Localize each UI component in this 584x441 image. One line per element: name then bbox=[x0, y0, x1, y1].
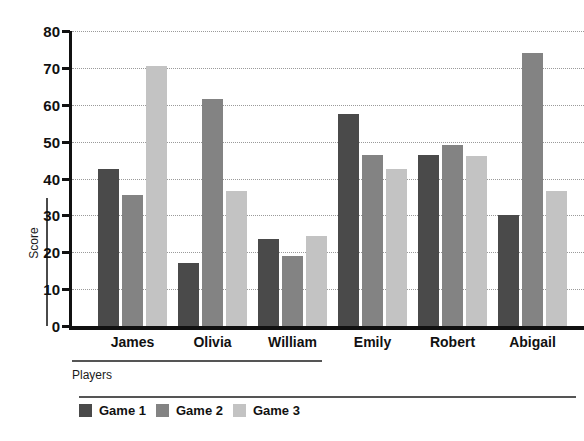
bar bbox=[226, 191, 247, 326]
legend-swatch-icon bbox=[156, 404, 169, 417]
legend-label: Game 1 bbox=[99, 403, 146, 418]
bar-chart-figure: Score 01020304050607080 JamesOliviaWilli… bbox=[0, 0, 584, 441]
y-tick-mark bbox=[62, 67, 70, 70]
bar bbox=[282, 256, 303, 326]
y-tick-label: 60 bbox=[20, 98, 60, 113]
bar bbox=[178, 263, 199, 326]
bar bbox=[98, 169, 119, 326]
legend-swatch-icon bbox=[79, 404, 92, 417]
bar bbox=[122, 195, 143, 326]
y-tick-label: 70 bbox=[20, 61, 60, 76]
y-tick-mark bbox=[62, 104, 70, 107]
y-tick-label: 50 bbox=[20, 135, 60, 150]
y-tick-label: 0 bbox=[20, 319, 60, 334]
legend-swatch-icon bbox=[233, 404, 246, 417]
y-tick-label: 80 bbox=[20, 24, 60, 39]
bar bbox=[386, 169, 407, 326]
y-tick-label: 10 bbox=[20, 282, 60, 297]
legend-item: Game 2 bbox=[156, 403, 223, 418]
bar bbox=[418, 155, 439, 326]
y-tick-mark bbox=[62, 214, 70, 217]
x-axis-spine bbox=[69, 326, 584, 330]
bar bbox=[146, 66, 167, 326]
y-tick-label: 30 bbox=[20, 208, 60, 223]
y-tick-mark bbox=[62, 288, 70, 291]
y-tick-mark bbox=[62, 141, 70, 144]
y-tick-mark bbox=[62, 325, 70, 328]
chart-legend: Game 1Game 2Game 3 bbox=[79, 403, 300, 418]
bar bbox=[442, 145, 463, 326]
x-tick-label-abigail: Abigail bbox=[483, 334, 583, 350]
legend-label: Game 2 bbox=[176, 403, 223, 418]
bar bbox=[466, 156, 487, 326]
x-axis-title-rule bbox=[72, 360, 322, 362]
x-axis-title: Players bbox=[72, 368, 112, 382]
y-tick-mark bbox=[62, 178, 70, 181]
y-tick-mark bbox=[62, 251, 70, 254]
gridline bbox=[72, 31, 584, 32]
bar bbox=[546, 191, 567, 326]
legend-label: Game 3 bbox=[253, 403, 300, 418]
legend-item: Game 1 bbox=[79, 403, 146, 418]
y-tick-label: 20 bbox=[20, 245, 60, 260]
legend-item: Game 3 bbox=[233, 403, 300, 418]
bar bbox=[338, 114, 359, 326]
legend-rule bbox=[79, 396, 576, 398]
y-tick-label: 40 bbox=[20, 172, 60, 187]
bar bbox=[498, 215, 519, 326]
bar bbox=[362, 155, 383, 326]
bar bbox=[202, 99, 223, 326]
y-tick-mark bbox=[62, 30, 70, 33]
plot-area bbox=[72, 31, 584, 326]
bar bbox=[306, 236, 327, 326]
bar bbox=[522, 53, 543, 326]
bar bbox=[258, 239, 279, 326]
